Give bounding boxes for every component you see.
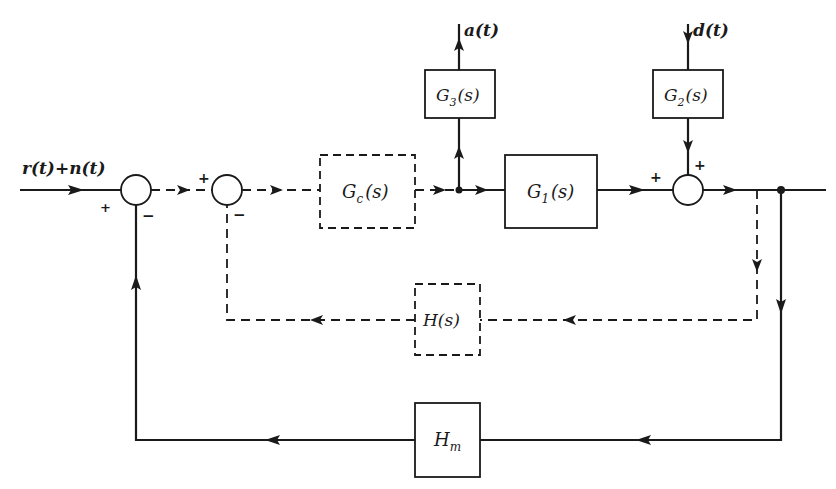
arrow-right-icon bbox=[177, 185, 190, 195]
g2-to-sum3-line bbox=[683, 118, 693, 175]
sensor-block-h: H(s) bbox=[415, 284, 480, 355]
controller-block-gc: Gc(s) bbox=[320, 155, 415, 228]
sum1-plus-sign: + bbox=[100, 200, 111, 215]
block-g3: G3(s) bbox=[425, 70, 495, 118]
sum2-to-gc-line bbox=[242, 185, 320, 195]
disturbance-label: d(t) bbox=[693, 20, 729, 40]
h-feedback-path bbox=[227, 190, 762, 325]
arrow-down-icon bbox=[752, 259, 762, 272]
g1-to-sum3-line bbox=[597, 185, 673, 195]
sum2-minus-sign: − bbox=[233, 206, 246, 224]
arrow-left-icon bbox=[563, 315, 576, 325]
summing-junction-3 bbox=[673, 175, 703, 205]
branch-to-g3-line bbox=[454, 118, 464, 190]
block-diagram: r(t)+n(t) + − + − Gc(s) bbox=[0, 0, 836, 489]
disturbance-to-g2-line bbox=[683, 24, 693, 70]
input-line bbox=[20, 185, 121, 195]
branch-to-g1-line bbox=[459, 185, 505, 195]
arrow-right-icon bbox=[270, 185, 283, 195]
measurement-block-hm: Hm bbox=[415, 403, 480, 477]
plant-block-g1: G1(s) bbox=[505, 155, 597, 228]
input-signal-label: r(t)+n(t) bbox=[22, 158, 105, 178]
summing-junction-1 bbox=[121, 175, 151, 205]
sum3-to-output-line bbox=[703, 185, 826, 195]
sum1-to-sum2-line bbox=[151, 185, 212, 195]
g3-to-a-output-line bbox=[454, 24, 464, 70]
sum2-plus-sign: + bbox=[198, 170, 210, 186]
sum1-minus-sign: − bbox=[142, 207, 155, 225]
block-g2: G2(s) bbox=[653, 70, 723, 118]
summing-junction-2 bbox=[212, 175, 242, 205]
sum3-left-plus-sign: + bbox=[650, 169, 662, 185]
h-label: H(s) bbox=[422, 310, 460, 330]
gc-to-branch-line bbox=[415, 185, 455, 195]
a-output-label: a(t) bbox=[464, 20, 499, 40]
sum3-top-plus-sign: + bbox=[694, 157, 706, 173]
